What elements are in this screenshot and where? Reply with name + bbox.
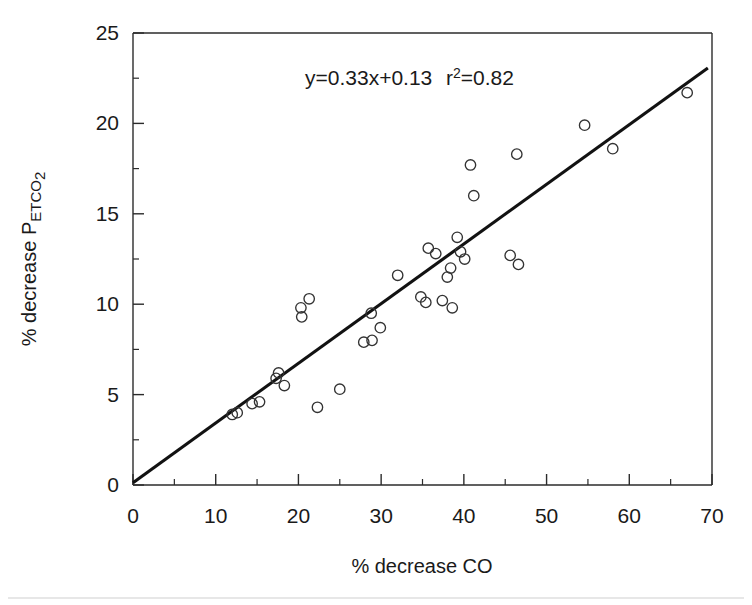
y-tick-label-15: 15 xyxy=(96,202,119,225)
data-points-group xyxy=(227,87,692,419)
data-point xyxy=(335,384,345,394)
data-point xyxy=(513,259,523,269)
data-point xyxy=(437,295,447,305)
data-point xyxy=(279,380,289,390)
data-point xyxy=(304,294,314,304)
x-axis-tick-labels: 010203040506070 xyxy=(127,504,724,527)
r-squared-label: r2=0.82 xyxy=(446,65,514,89)
y-axis-title: % decrease PETCO2 xyxy=(18,172,48,347)
x-tick-label-40: 40 xyxy=(452,504,475,527)
figure-container: 010203040506070 0510152025 y=0.33x+0.13 … xyxy=(0,0,752,605)
scatter-plot: 010203040506070 0510152025 y=0.33x+0.13 … xyxy=(0,0,752,605)
data-point xyxy=(512,149,522,159)
data-point xyxy=(247,398,257,408)
regression-equation-label: y=0.33x+0.13 xyxy=(305,66,432,89)
data-point xyxy=(465,160,475,170)
data-point xyxy=(452,232,462,242)
y-tick-label-0: 0 xyxy=(107,473,119,496)
x-tick-label-30: 30 xyxy=(369,504,392,527)
y-axis-minor-ticks xyxy=(133,78,139,440)
x-tick-label-20: 20 xyxy=(287,504,310,527)
data-point xyxy=(254,397,264,407)
data-point xyxy=(447,303,457,313)
y-tick-label-20: 20 xyxy=(96,111,119,134)
data-point xyxy=(392,270,402,280)
y-tick-label-10: 10 xyxy=(96,292,119,315)
plot-frame xyxy=(133,33,712,485)
y-tick-label-5: 5 xyxy=(107,383,119,406)
data-point xyxy=(682,87,692,97)
x-tick-label-70: 70 xyxy=(700,504,723,527)
regression-line xyxy=(133,68,708,483)
x-axis-title: % decrease CO xyxy=(351,555,492,577)
data-point xyxy=(312,402,322,412)
x-axis-minor-ticks xyxy=(174,479,670,485)
data-point xyxy=(445,263,455,273)
x-tick-label-50: 50 xyxy=(535,504,558,527)
data-point xyxy=(579,120,589,130)
data-point xyxy=(423,243,433,253)
data-point xyxy=(505,250,515,260)
data-point xyxy=(469,191,479,201)
data-point xyxy=(431,248,441,258)
x-tick-label-0: 0 xyxy=(127,504,139,527)
y-tick-label-25: 25 xyxy=(96,21,119,44)
x-tick-label-60: 60 xyxy=(618,504,641,527)
y-axis-tick-labels: 0510152025 xyxy=(96,21,119,496)
data-point xyxy=(608,144,618,154)
x-tick-label-10: 10 xyxy=(204,504,227,527)
data-point xyxy=(375,323,385,333)
